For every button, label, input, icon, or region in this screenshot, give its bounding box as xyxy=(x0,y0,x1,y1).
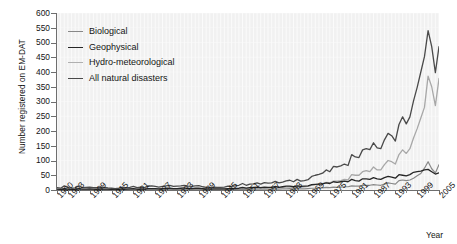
legend-swatch-biological xyxy=(68,31,83,32)
legend-item-all-natural-disasters: All natural disasters xyxy=(68,71,175,87)
y-tick xyxy=(51,72,56,73)
y-tick-label: 400 xyxy=(4,68,50,76)
y-tick-label: 150 xyxy=(4,142,50,150)
y-tick-label: 200 xyxy=(4,127,50,135)
x-minor-tick xyxy=(428,190,429,193)
y-tick-label: 300 xyxy=(4,97,50,105)
legend-item-biological: Biological xyxy=(68,24,175,40)
y-tick xyxy=(51,116,56,117)
y-tick xyxy=(51,28,56,29)
x-minor-tick xyxy=(144,190,145,193)
x-minor-tick xyxy=(275,190,276,193)
y-tick-label: 350 xyxy=(4,83,50,91)
x-minor-tick xyxy=(210,190,211,193)
y-tick-label: 550 xyxy=(4,24,50,32)
y-tick xyxy=(51,161,56,162)
y-tick xyxy=(51,43,56,44)
legend-label-hydro-meteorological: Hydro-meteorological xyxy=(89,58,175,67)
y-tick xyxy=(51,102,56,103)
legend-label-biological: Biological xyxy=(89,27,128,36)
y-tick-label: 0 xyxy=(4,186,50,194)
legend-item-geophysical: Geophysical xyxy=(68,40,175,56)
x-minor-tick xyxy=(188,190,189,193)
y-tick xyxy=(51,175,56,176)
y-tick-label: 500 xyxy=(4,38,50,46)
x-minor-tick xyxy=(166,190,167,193)
x-minor-tick xyxy=(79,190,80,193)
y-tick xyxy=(51,87,56,88)
x-minor-tick xyxy=(384,190,385,193)
legend-swatch-all-natural-disasters xyxy=(68,78,83,79)
legend-label-geophysical: Geophysical xyxy=(89,43,139,52)
x-minor-tick xyxy=(406,190,407,193)
x-minor-tick xyxy=(253,190,254,193)
y-tick xyxy=(51,131,56,132)
x-minor-tick xyxy=(363,190,364,193)
chart-legend: Biological Geophysical Hydro-meteorologi… xyxy=(68,24,175,86)
y-tick xyxy=(51,146,56,147)
x-minor-tick xyxy=(319,190,320,193)
y-tick xyxy=(51,57,56,58)
x-minor-tick xyxy=(101,190,102,193)
y-axis-line xyxy=(56,13,57,191)
y-tick-label: 50 xyxy=(4,171,50,179)
legend-item-hydro-meteorological: Hydro-meteorological xyxy=(68,55,175,71)
x-minor-tick xyxy=(232,190,233,193)
legend-swatch-hydro-meteorological xyxy=(68,62,83,63)
x-axis-title: Year xyxy=(426,230,443,240)
series-line-hydro-meteorological xyxy=(57,76,439,189)
y-axis-labels: 600550500450400350300250200150100500 xyxy=(0,0,50,200)
y-tick-label: 600 xyxy=(4,9,50,17)
x-minor-tick xyxy=(297,190,298,193)
y-tick xyxy=(51,13,56,14)
y-tick-label: 450 xyxy=(4,53,50,61)
y-tick-label: 250 xyxy=(4,112,50,120)
legend-swatch-geophysical xyxy=(68,47,83,48)
legend-label-all-natural-disasters: All natural disasters xyxy=(89,74,168,83)
x-minor-tick xyxy=(341,190,342,193)
x-minor-tick xyxy=(122,190,123,193)
y-tick-label: 100 xyxy=(4,156,50,164)
x-tick-label: 2005 xyxy=(437,180,457,200)
